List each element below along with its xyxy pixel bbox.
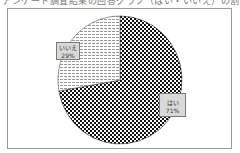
label-no-name: いいえ [57, 44, 79, 52]
data-label-yes: はい 71% [159, 93, 186, 117]
label-no-percent: 29% [57, 52, 79, 60]
data-label-no: いいえ 29% [56, 42, 80, 60]
pie-chart [0, 0, 240, 153]
label-yes-percent: 71% [160, 107, 185, 115]
label-yes-name: はい [160, 99, 185, 107]
